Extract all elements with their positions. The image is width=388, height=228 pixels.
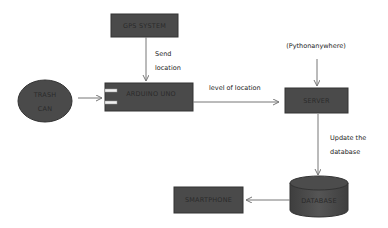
- level-of-location-label: level of location: [209, 84, 261, 92]
- arduino-uno-label: ARDUINO UNO: [126, 90, 176, 98]
- arduino-uno-node: ARDUINO UNO: [105, 83, 193, 111]
- system-diagram: GPS SYSTEM Send location TRASH CAN ARDUI…: [0, 0, 388, 228]
- smartphone-label: SMARTPHONE: [185, 196, 232, 204]
- edge-gps-to-arduino: Send location: [146, 37, 181, 81]
- database-node: DATABASE: [290, 176, 348, 217]
- arduino-pin-bottom: [105, 101, 117, 104]
- edge-arduino-to-server: level of location: [193, 84, 279, 102]
- gps-system-label: GPS SYSTEM: [123, 22, 166, 30]
- trash-can-node: TRASH CAN: [18, 80, 72, 122]
- pythonanywhere-node: (Pythonanywhere): [286, 42, 346, 50]
- smartphone-node: SMARTPHONE: [174, 187, 243, 213]
- trash-can-label-line2: CAN: [38, 105, 52, 113]
- update-database-label-line1: Update the: [330, 134, 366, 142]
- send-location-label-line1: Send: [155, 50, 171, 58]
- gps-system-node: GPS SYSTEM: [111, 14, 178, 37]
- database-label: DATABASE: [301, 197, 336, 205]
- edge-server-to-database: Update the database: [318, 114, 366, 175]
- server-label: SERVER: [303, 97, 330, 105]
- arduino-pin-top: [105, 89, 117, 92]
- pythonanywhere-label: (Pythonanywhere): [286, 42, 346, 50]
- update-database-label-line2: database: [330, 148, 360, 156]
- server-node: SERVER: [285, 88, 348, 113]
- trash-can-label-line1: TRASH: [33, 91, 57, 99]
- send-location-label-line2: location: [155, 64, 181, 72]
